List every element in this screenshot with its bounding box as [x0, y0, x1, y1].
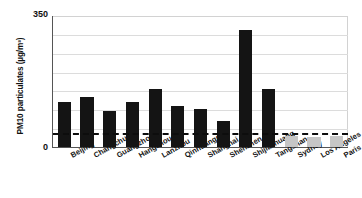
bar	[307, 137, 320, 147]
bar	[149, 89, 162, 147]
y-axis-title: PM10 particulates (µg/m³)	[14, 20, 28, 152]
bar	[80, 97, 93, 147]
plot-area	[52, 16, 348, 148]
bar	[262, 89, 275, 147]
bar	[330, 136, 343, 147]
bar	[285, 136, 298, 147]
reference-line	[53, 133, 348, 135]
y-axis-min-tick-label: 0	[28, 142, 48, 152]
y-axis-max-tick-label: 350	[24, 9, 48, 19]
bar	[126, 102, 139, 147]
x-axis-labels: BeijingChangchunGuangzhouHangzhouLanzhou…	[52, 148, 348, 198]
bar	[194, 109, 207, 147]
bar	[58, 102, 71, 147]
bars-layer	[53, 16, 348, 147]
bar	[239, 30, 252, 147]
bar	[103, 111, 116, 147]
bar	[171, 106, 184, 147]
